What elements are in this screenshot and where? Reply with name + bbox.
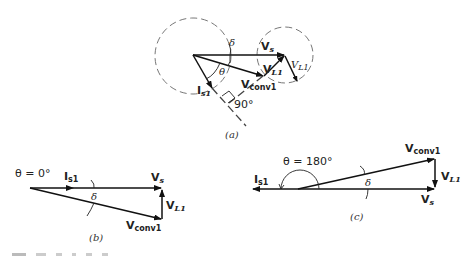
- right-angle-label: 90°: [234, 98, 254, 111]
- theta-label-b: θ = 0°: [15, 167, 50, 180]
- phasor-diagram-canvas: δ θ Vs VL1 VL1 Vconv1 Is1 90° (a) θ = 0°…: [0, 0, 469, 256]
- vconv-label-b: Vconv1: [126, 219, 162, 233]
- vl1-outer-label: VL1: [291, 59, 309, 72]
- theta-label-c: θ = 180°: [283, 155, 332, 168]
- caption-c: (c): [350, 211, 364, 222]
- theta-label: θ: [219, 66, 225, 77]
- vs-label: Vs: [261, 40, 275, 54]
- delta-label-c: δ: [365, 177, 371, 188]
- vl1-label-b: VL1: [166, 199, 186, 213]
- vl1-label-c: VL1: [441, 170, 461, 184]
- theta-arc: [206, 63, 220, 79]
- vconv-label-c: Vconv1: [405, 142, 441, 156]
- delta-label: δ: [229, 37, 235, 48]
- caption-b: (b): [89, 232, 103, 243]
- delta-arc-c: [360, 166, 365, 175]
- vs-label-b: Vs: [151, 171, 165, 185]
- delta-label-b: δ: [91, 191, 97, 202]
- vl1-inner-label: VL1: [263, 63, 283, 77]
- panel-a: δ θ Vs VL1 VL1 Vconv1 Is1 90° (a): [155, 18, 313, 140]
- is1-arrowhead-b: [66, 185, 74, 191]
- panel-b: θ = 0° Is1 δ Vs VL1 Vconv1 (b): [15, 167, 186, 243]
- delta-arc-lower: [228, 55, 230, 66]
- delta-arc-c-lower: [366, 189, 368, 199]
- is1-label: Is1: [197, 84, 211, 98]
- delta-arc-b: [91, 180, 94, 188]
- vs-label-c: Vs: [421, 193, 435, 207]
- panel-c: θ = 180° Is1 Vconv1 VL1 δ Vs (c): [253, 142, 461, 222]
- is1-label-c: Is1: [254, 173, 269, 187]
- is1-label-b: Is1: [64, 170, 79, 184]
- caption-a: (a): [225, 129, 239, 140]
- delta-arc-b-lower: [87, 203, 94, 216]
